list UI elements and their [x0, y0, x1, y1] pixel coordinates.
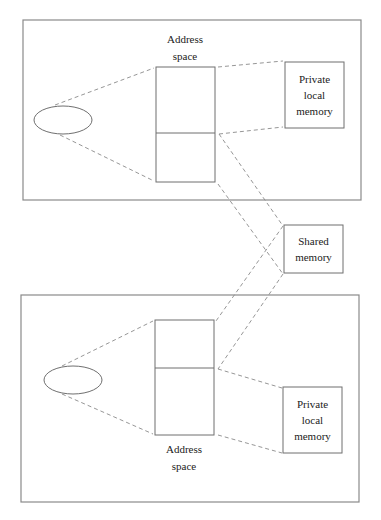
top-process-ellipse — [34, 106, 92, 134]
bottom-dashed-connectors — [62, 321, 282, 453]
bottom-address-space-box — [155, 320, 214, 435]
top-address-space-box — [156, 67, 215, 182]
top-private-memory-label: Private local memory — [285, 62, 344, 128]
bottom-address-space-label-line2: space — [154, 458, 214, 475]
top-private-memory-line1: Private — [299, 71, 330, 87]
shared-memory-label: Shared memory — [284, 225, 343, 273]
bottom-private-memory-line1: Private — [297, 396, 328, 412]
top-address-space-label-line2: space — [155, 48, 215, 65]
top-private-memory-line2: local — [304, 87, 325, 103]
top-address-space-label-line1: Address — [155, 31, 215, 48]
bottom-process-ellipse — [44, 366, 102, 394]
bottom-private-memory-line2: local — [302, 412, 323, 428]
bottom-private-memory-label: Private local memory — [283, 387, 342, 453]
bottom-private-memory-line3: memory — [294, 428, 331, 444]
bottom-address-space-label: Address space — [154, 441, 214, 475]
shared-dashed-connectors — [216, 134, 283, 369]
bottom-address-space-label-line1: Address — [154, 441, 214, 458]
top-private-memory-line3: memory — [296, 103, 333, 119]
top-dashed-connectors — [55, 61, 283, 181]
shared-memory-line2: memory — [295, 249, 332, 265]
shared-memory-line1: Shared — [298, 233, 329, 249]
top-address-space-label: Address space — [155, 31, 215, 65]
